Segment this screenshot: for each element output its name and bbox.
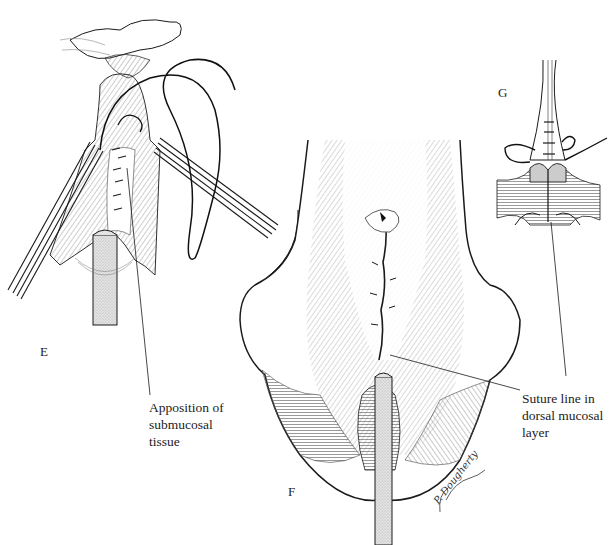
callout-line: Suture line in	[522, 390, 603, 407]
callout-submucosal-apposition: Apposition of submucosal tissue	[149, 399, 224, 450]
callout-line: tissue	[149, 433, 224, 450]
panel-f-drawing	[240, 140, 520, 545]
callout-line: submucosal	[149, 416, 224, 433]
panel-label-e: E	[40, 344, 48, 360]
callout-suture-line: Suture line in dorsal mucosal layer	[522, 390, 603, 441]
callout-line: dorsal mucosal	[522, 407, 603, 424]
panel-label-g: G	[498, 85, 507, 101]
panel-label-f: F	[288, 484, 295, 500]
surgical-illustration: E F G Apposition of submucosal tissue Su…	[0, 0, 614, 545]
illustration-artwork	[0, 0, 614, 545]
callout-line: Apposition of	[149, 399, 224, 416]
callout-line: layer	[522, 424, 603, 441]
